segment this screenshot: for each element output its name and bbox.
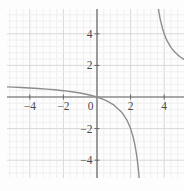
x-tick-label: 0: [88, 100, 94, 112]
y-tick-label: 2: [87, 59, 93, 71]
x-tick-label: 4: [161, 100, 167, 112]
y-tick-label: −4: [80, 154, 92, 166]
y-tick-label: 4: [87, 28, 93, 40]
y-tick-label: −2: [80, 123, 92, 135]
x-tick-label: 2: [128, 100, 134, 112]
x-tick-label: −2: [57, 100, 69, 112]
function-plot-figure: −4−202442−2−4: [0, 0, 184, 191]
x-tick-label: −4: [24, 100, 36, 112]
plot-canvas: −4−202442−2−4: [0, 0, 184, 191]
